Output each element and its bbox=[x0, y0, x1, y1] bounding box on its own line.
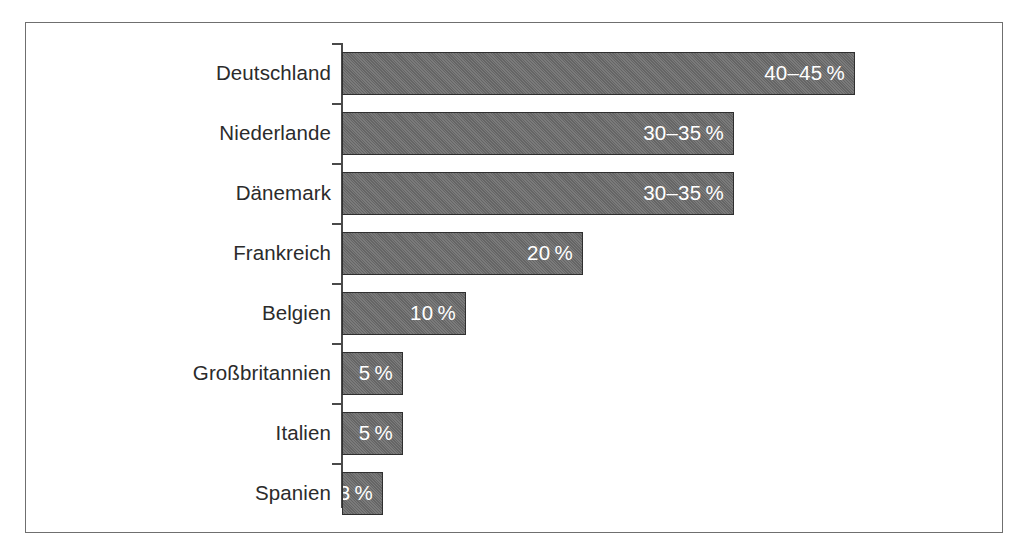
bar-value-label: 30–35 % bbox=[643, 123, 733, 144]
category-label: Niederlande bbox=[219, 121, 331, 145]
category-label: Spanien bbox=[255, 481, 331, 505]
bar-wrapper: 10 % bbox=[342, 292, 466, 335]
bar-row: Deutschland 40–45 % bbox=[26, 43, 1004, 103]
bar-row: Dänemark 30–35 % bbox=[26, 163, 1004, 223]
bar[interactable]: 30–35 % bbox=[342, 112, 734, 155]
chart-frame-border: Deutschland 40–45 % Niederlande 30–35 % bbox=[25, 22, 1003, 533]
bar[interactable]: 10 % bbox=[342, 292, 466, 335]
bar-row: Spanien 3 % bbox=[26, 463, 1004, 523]
bar-wrapper: 5 % bbox=[342, 352, 403, 395]
bar-value-label: 20 % bbox=[527, 243, 582, 264]
bar[interactable]: 3 % bbox=[342, 472, 383, 515]
axis-tick bbox=[332, 343, 343, 345]
category-label: Dänemark bbox=[236, 181, 331, 205]
axis-tick bbox=[332, 463, 343, 465]
bar-wrapper: 30–35 % bbox=[342, 112, 734, 155]
bar[interactable]: 20 % bbox=[342, 232, 583, 275]
bar-value-label: 5 % bbox=[359, 363, 402, 384]
axis-tick bbox=[332, 283, 343, 285]
category-label: Großbritannien bbox=[193, 361, 331, 385]
plot-area: Deutschland 40–45 % Niederlande 30–35 % bbox=[26, 23, 1004, 534]
bar-value-label: 40–45 % bbox=[764, 63, 854, 84]
bar-value-label: 5 % bbox=[359, 423, 402, 444]
bar[interactable]: 30–35 % bbox=[342, 172, 734, 215]
bar-wrapper: 3 % bbox=[342, 472, 383, 515]
bar-row: Frankreich 20 % bbox=[26, 223, 1004, 283]
bar[interactable]: 5 % bbox=[342, 352, 403, 395]
bar-row: Großbritannien 5 % bbox=[26, 343, 1004, 403]
bar-wrapper: 5 % bbox=[342, 412, 403, 455]
axis-tick bbox=[332, 403, 343, 405]
bar-wrapper: 30–35 % bbox=[342, 172, 734, 215]
bar-value-label: 30–35 % bbox=[643, 183, 733, 204]
category-label: Frankreich bbox=[233, 241, 331, 265]
axis-tick bbox=[332, 163, 343, 165]
axis-tick bbox=[332, 43, 343, 45]
bar-value-label: 10 % bbox=[410, 303, 465, 324]
bar-row: Belgien 10 % bbox=[26, 283, 1004, 343]
category-label: Italien bbox=[276, 421, 331, 445]
bar[interactable]: 40–45 % bbox=[342, 52, 855, 95]
bar-wrapper: 40–45 % bbox=[342, 52, 855, 95]
axis-tick bbox=[332, 223, 343, 225]
bar-wrapper: 20 % bbox=[342, 232, 583, 275]
bar-row: Italien 5 % bbox=[26, 403, 1004, 463]
axis-tick bbox=[332, 103, 343, 105]
category-label: Belgien bbox=[262, 301, 331, 325]
bar[interactable]: 5 % bbox=[342, 412, 403, 455]
bar-value-label: 3 % bbox=[342, 483, 382, 504]
category-label: Deutschland bbox=[216, 61, 331, 85]
chart-figure: Deutschland 40–45 % Niederlande 30–35 % bbox=[0, 0, 1027, 549]
bar-row: Niederlande 30–35 % bbox=[26, 103, 1004, 163]
